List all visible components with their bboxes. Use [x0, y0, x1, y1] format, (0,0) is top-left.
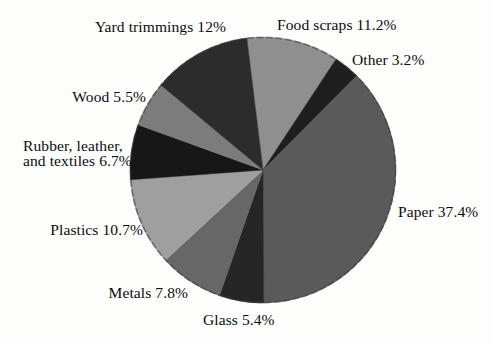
- pie-label-metals: Metals 7.8%: [109, 286, 188, 301]
- pie-label-plastics: Plastics 10.7%: [50, 223, 143, 238]
- pie-label-paper: Paper 37.4%: [398, 205, 478, 220]
- pie-label-food-scraps: Food scraps 11.2%: [277, 18, 397, 33]
- pie-label-wood: Wood 5.5%: [72, 90, 146, 105]
- pie-label-rubber-leather-textiles: Rubber, leather, and textiles 6.7%: [23, 139, 132, 168]
- waste-composition-pie-figure: Food scraps 11.2% Other 3.2% Paper 37.4%…: [0, 0, 491, 345]
- pie-label-other: Other 3.2%: [352, 53, 424, 68]
- pie-label-yard-trimmings: Yard trimmings 12%: [95, 20, 226, 35]
- pie-label-glass: Glass 5.4%: [203, 313, 275, 328]
